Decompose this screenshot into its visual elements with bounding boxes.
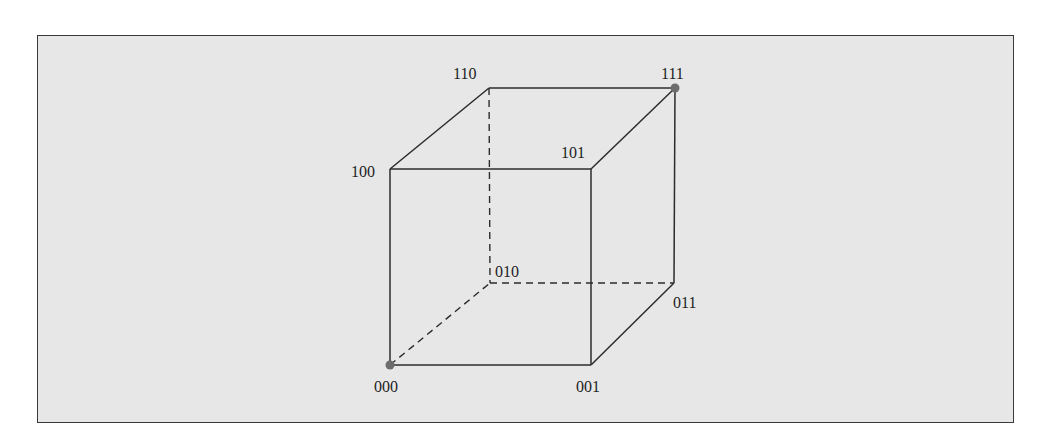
edge-101-111 xyxy=(591,88,675,169)
vertex-label-011: 011 xyxy=(673,294,696,311)
vertex-label-100: 100 xyxy=(351,163,375,180)
vertex-dot-111 xyxy=(671,84,680,93)
vertex-label-110: 110 xyxy=(453,65,476,82)
vertex-label-000: 000 xyxy=(374,378,398,395)
vertex-label-101: 101 xyxy=(561,144,585,161)
vertex-dot-000 xyxy=(386,361,395,370)
edge-100-110 xyxy=(390,88,489,169)
edge-011-111 xyxy=(674,88,675,283)
vertex-label-001: 001 xyxy=(576,378,600,395)
edge-110-010 xyxy=(489,88,490,283)
vertex-label-111: 111 xyxy=(661,65,684,82)
edge-001-011 xyxy=(591,283,674,365)
edge-000-010 xyxy=(390,283,490,365)
hypercube-diagram: 110 111 100 101 010 011 000 001 xyxy=(0,0,1049,447)
vertex-label-010: 010 xyxy=(495,263,519,280)
